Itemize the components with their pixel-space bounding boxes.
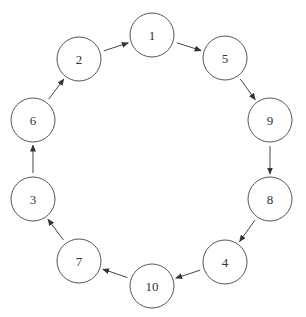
node-label: 9	[267, 113, 274, 128]
node-8: 8	[248, 177, 292, 221]
node-6: 6	[11, 98, 55, 142]
node-5: 5	[203, 36, 247, 80]
node-4: 4	[203, 240, 247, 284]
node-label: 4	[222, 255, 229, 270]
edge-1-to-5	[177, 43, 201, 51]
arrow-line	[240, 220, 255, 242]
arrow-line	[177, 43, 201, 51]
arrow-line	[240, 79, 255, 100]
edge-7-to-3	[48, 219, 64, 240]
edge-6-to-2	[49, 79, 64, 99]
node-3: 3	[11, 177, 55, 221]
arrow-line	[104, 43, 129, 51]
edge-4-to-10	[176, 270, 201, 278]
edge-8-to-4	[240, 220, 255, 242]
node-label: 6	[30, 113, 37, 128]
nodes-layer: 15984107362	[11, 13, 292, 308]
node-7: 7	[57, 239, 101, 283]
node-label: 3	[30, 192, 37, 207]
edge-5-to-9	[240, 79, 255, 100]
node-2: 2	[57, 37, 101, 81]
cycle-diagram: 15984107362	[0, 0, 306, 317]
arrow-line	[48, 219, 64, 240]
arrow-line	[49, 79, 64, 99]
node-1: 1	[130, 13, 174, 57]
edge-10-to-7	[103, 269, 128, 278]
node-label: 8	[267, 192, 274, 207]
node-label: 1	[149, 28, 156, 43]
node-9: 9	[248, 98, 292, 142]
node-10: 10	[130, 264, 174, 308]
node-label: 7	[76, 254, 83, 269]
edge-2-to-1	[104, 43, 129, 51]
node-label: 10	[146, 279, 159, 294]
node-label: 5	[222, 51, 229, 66]
node-label: 2	[76, 52, 83, 67]
arrow-line	[103, 269, 128, 278]
arrow-line	[176, 270, 201, 278]
